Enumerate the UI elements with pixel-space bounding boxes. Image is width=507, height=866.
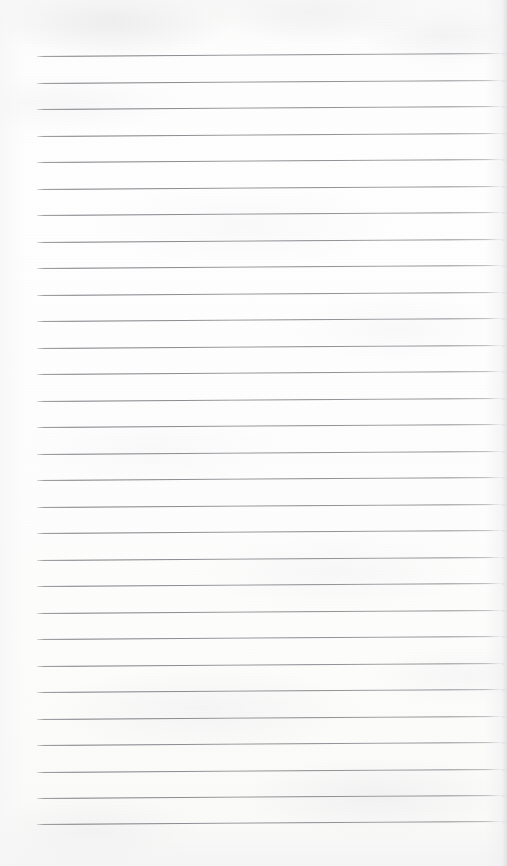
scanned-page: [0, 0, 507, 866]
paper-background: [0, 0, 507, 866]
